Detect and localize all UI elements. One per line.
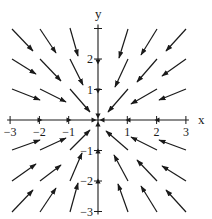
x-tick-label: 2 <box>154 125 160 139</box>
axis-arrowhead-icon <box>95 89 100 94</box>
field-arrow-icon <box>166 29 186 51</box>
x-tick-label: −3 <box>4 125 17 139</box>
field-arrow-icon <box>12 59 36 74</box>
field-arrow-icon <box>119 29 128 58</box>
field-arrow-icon <box>118 184 128 212</box>
x-tick-label: −2 <box>33 125 46 139</box>
axis-arrowhead-icon <box>92 117 97 122</box>
axis-arrowhead-icon <box>38 117 43 122</box>
field-arrow-icon <box>12 140 40 150</box>
field-arrow-icon <box>12 164 36 181</box>
field-arrow-icon <box>137 160 157 181</box>
field-arrow-icon <box>40 188 56 212</box>
field-arrow-icon <box>40 89 66 102</box>
y-axis-label: y <box>95 6 102 21</box>
y-tick-label: 2 <box>87 52 93 66</box>
vector-field-plot: −3−2−112321−1−2−3 x y <box>0 0 212 219</box>
field-arrow-icon <box>70 28 78 56</box>
field-arrow-icon <box>141 186 157 212</box>
x-tick-label: 1 <box>124 125 130 139</box>
field-arrow-icon <box>115 59 128 87</box>
field-arrow-icon <box>40 59 61 81</box>
axis-arrowhead-icon <box>95 114 100 119</box>
field-arrow-icon <box>40 138 66 150</box>
field-arrow-icon <box>70 59 83 85</box>
field-arrow-icon <box>162 166 186 181</box>
field-arrow-icon <box>70 183 78 212</box>
field-arrow-icon <box>166 190 186 212</box>
field-arrow-icon <box>12 190 33 212</box>
axis-arrowhead-icon <box>95 60 100 65</box>
axis-arrowhead-icon <box>100 117 105 122</box>
field-arrow-icon <box>40 165 61 181</box>
field-arrow-icon <box>159 140 186 150</box>
y-tick-label: 1 <box>87 83 93 97</box>
field-arrow-icon <box>12 29 33 51</box>
field-arrow-icon <box>131 89 157 104</box>
field-arrow-icon <box>141 29 157 55</box>
field-arrow-icon <box>40 29 56 53</box>
y-tick-label: −2 <box>80 174 93 188</box>
axis-arrowhead-icon <box>126 117 131 122</box>
field-arrow-icon <box>137 59 157 82</box>
field-arrow-icon <box>162 59 186 76</box>
y-tick-label: −1 <box>80 144 93 158</box>
y-tick-label: −3 <box>80 205 93 219</box>
vector-field-diagram: −3−2−112321−1−2−3 x y <box>0 0 212 219</box>
field-arrow-icon <box>108 89 128 112</box>
axis-ticks: −3−2−112321−1−2−3 <box>4 29 189 219</box>
x-tick-label: −1 <box>62 125 75 139</box>
x-axis-label: x <box>198 112 205 127</box>
field-arrow-icon <box>159 89 186 100</box>
x-tick-label: 3 <box>183 125 189 139</box>
field-arrow-icon <box>114 155 128 181</box>
axes: −3−2−112321−1−2−3 x y <box>4 6 205 219</box>
axis-arrowhead-icon <box>95 122 100 127</box>
field-arrow-icon <box>12 89 40 100</box>
